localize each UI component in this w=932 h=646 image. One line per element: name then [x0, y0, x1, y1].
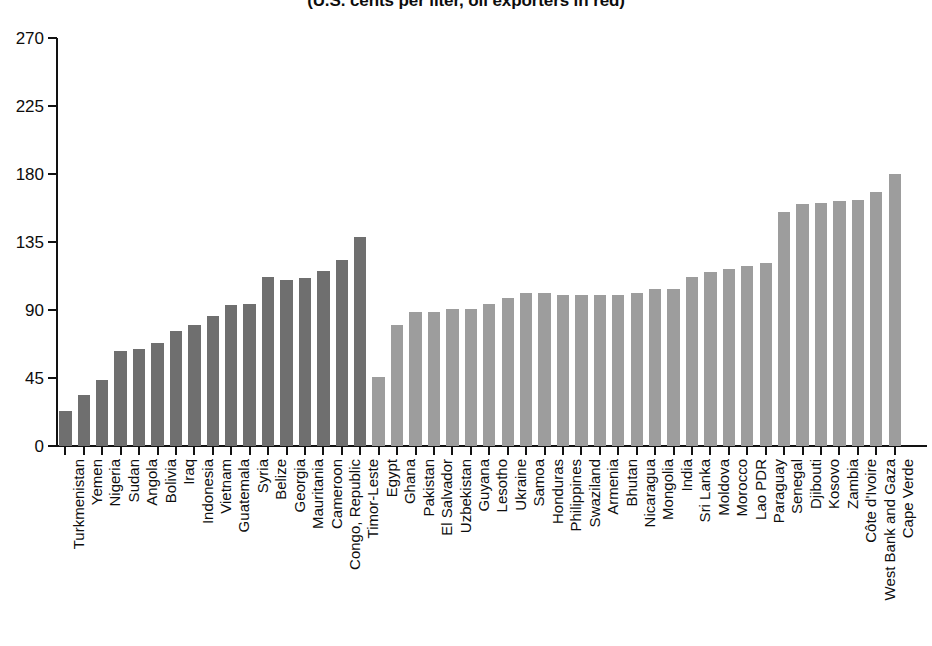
- bar-slot: [389, 38, 407, 446]
- bar-belize[interactable]: [262, 277, 274, 446]
- bar-morocco[interactable]: [723, 269, 735, 446]
- x-axis-tick: [138, 447, 140, 455]
- bar-slot: [315, 38, 333, 446]
- bar-swaziland[interactable]: [575, 295, 587, 446]
- bar-slot: [426, 38, 444, 446]
- x-axis-tick: [230, 447, 232, 455]
- bar-timor-leste[interactable]: [354, 237, 366, 446]
- x-axis-tick: [249, 447, 251, 455]
- x-axis-label: Paraguay: [771, 459, 786, 523]
- bar-slot: [757, 38, 775, 446]
- x-axis-tick: [728, 447, 730, 455]
- x-axis-label: Nicaragua: [642, 459, 657, 527]
- x-axis-label: Mongolia: [660, 459, 675, 520]
- x-axis-label: Uzbekistan: [458, 459, 473, 533]
- bar-paraguay[interactable]: [760, 263, 772, 446]
- bar-mongolia[interactable]: [649, 289, 661, 446]
- y-axis-label: 225: [0, 98, 44, 115]
- bar-georgia[interactable]: [280, 280, 292, 446]
- bar-slot: [444, 38, 462, 446]
- bar-slot: [94, 38, 112, 446]
- bar-sudan[interactable]: [114, 351, 126, 446]
- bar-slot: [499, 38, 517, 446]
- bar-moldova[interactable]: [704, 272, 716, 446]
- x-axis-tick: [451, 447, 453, 455]
- x-axis-label: Yemen: [89, 459, 104, 505]
- bar-angola[interactable]: [133, 349, 145, 446]
- bar-guyana[interactable]: [465, 309, 477, 447]
- x-axis-label: West Bank and Gaza: [882, 459, 897, 600]
- bar-djibouti[interactable]: [796, 204, 808, 446]
- x-axis-tick: [562, 447, 564, 455]
- chart-title: (U.S. cents per liter, oil exporters in …: [0, 0, 932, 11]
- bar-pakistan[interactable]: [409, 312, 421, 446]
- bar-nicaragua[interactable]: [631, 293, 643, 446]
- bar-kosovo[interactable]: [815, 203, 827, 446]
- bar-iraq[interactable]: [170, 331, 182, 446]
- bar-vietnam[interactable]: [207, 316, 219, 446]
- bar-cape-verde[interactable]: [889, 174, 901, 446]
- x-axis-label: El Salvador: [439, 459, 454, 536]
- x-axis-tick: [802, 447, 804, 455]
- bar-guatemala[interactable]: [225, 305, 237, 446]
- bar-senegal[interactable]: [778, 212, 790, 446]
- x-axis-tick: [838, 447, 840, 455]
- bar-west-bank-and-gaza[interactable]: [870, 192, 882, 446]
- bar-egypt[interactable]: [372, 377, 384, 447]
- bar-yemen[interactable]: [78, 395, 90, 446]
- bar-indonesia[interactable]: [188, 325, 200, 446]
- bar-philippines[interactable]: [557, 295, 569, 446]
- x-axis-tick: [525, 447, 527, 455]
- x-axis-tick: [580, 447, 582, 455]
- x-axis-label: Samoa: [531, 459, 546, 507]
- x-axis-label: Cape Verde: [900, 459, 915, 538]
- bar-india[interactable]: [667, 289, 679, 446]
- x-axis-tick: [415, 447, 417, 455]
- bar-slot: [628, 38, 646, 446]
- x-axis-label: Iraq: [181, 459, 196, 485]
- bar-syria[interactable]: [243, 304, 255, 446]
- bar-cameroon[interactable]: [317, 271, 329, 446]
- bar-ghana[interactable]: [391, 325, 403, 446]
- bar-congo-republic[interactable]: [336, 260, 348, 446]
- bar-sri-lanka[interactable]: [686, 277, 698, 446]
- x-axis-label: Swaziland: [587, 459, 602, 527]
- x-axis-label: Moldova: [716, 459, 731, 516]
- bar-slot: [831, 38, 849, 446]
- bar-bolivia[interactable]: [151, 343, 163, 446]
- bar-slot: [794, 38, 812, 446]
- bar-lesotho[interactable]: [483, 304, 495, 446]
- bar-slot: [813, 38, 831, 446]
- x-axis-tick: [359, 447, 361, 455]
- bar-c-te-d-ivoire[interactable]: [852, 200, 864, 446]
- bar-ukraine[interactable]: [502, 298, 514, 446]
- x-axis-label: Angola: [144, 459, 159, 506]
- bar-turkmenistan[interactable]: [59, 411, 71, 446]
- x-axis-tick: [820, 447, 822, 455]
- y-axis-tick: [48, 37, 57, 39]
- bar-uzbekistan[interactable]: [446, 309, 458, 447]
- bar-mauritania[interactable]: [299, 278, 311, 446]
- bar-armenia[interactable]: [594, 295, 606, 446]
- bar-lao-pdr[interactable]: [741, 266, 753, 446]
- bar-slot: [665, 38, 683, 446]
- bar-honduras[interactable]: [538, 293, 550, 446]
- bar-slot: [868, 38, 886, 446]
- x-axis-label: Guyana: [476, 459, 491, 512]
- bar-nigeria[interactable]: [96, 380, 108, 446]
- x-axis-label: Syria: [255, 459, 270, 493]
- x-axis-tick: [470, 447, 472, 455]
- bar-slot: [739, 38, 757, 446]
- bar-slot: [849, 38, 867, 446]
- x-axis-label: Zambia: [845, 459, 860, 509]
- y-axis-label: 270: [0, 30, 44, 47]
- bar-bhutan[interactable]: [612, 295, 624, 446]
- x-axis-tick: [875, 447, 877, 455]
- bar-slot: [720, 38, 738, 446]
- x-axis-label: Indonesia: [200, 459, 215, 524]
- bar-el-salvador[interactable]: [428, 312, 440, 446]
- bar-zambia[interactable]: [833, 201, 845, 446]
- x-axis-tick: [857, 447, 859, 455]
- x-axis-label: Georgia: [292, 459, 307, 512]
- bar-samoa[interactable]: [520, 293, 532, 446]
